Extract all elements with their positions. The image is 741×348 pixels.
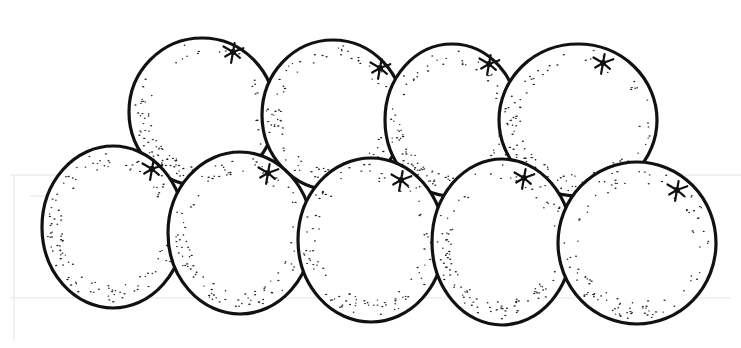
- orange-front-2: [168, 152, 312, 314]
- orange-outline: [298, 158, 444, 322]
- orange-front-3: [298, 158, 444, 322]
- orange-front-1: [42, 146, 184, 308]
- orange-outline: [432, 159, 572, 325]
- orange-front-5: [558, 162, 716, 324]
- front-row-oranges: [42, 146, 716, 325]
- orange-outline: [558, 162, 716, 324]
- orange-outline: [168, 152, 312, 314]
- orange-outline: [42, 146, 184, 308]
- orange-front-4: [432, 159, 572, 325]
- oranges-illustration: [0, 0, 741, 348]
